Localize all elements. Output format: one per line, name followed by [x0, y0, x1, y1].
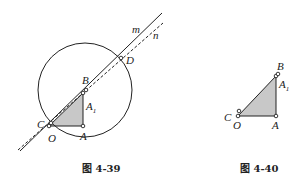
label-m: m: [132, 23, 140, 35]
label-O: O: [48, 132, 56, 144]
point-A: [274, 114, 278, 118]
shaded-triangle: [49, 93, 83, 126]
figure-4-40: B A1 C O A 图 4-40: [224, 60, 289, 174]
caption-4-39: 图 4-39: [82, 163, 121, 174]
point-C: [49, 121, 53, 125]
point-B: [84, 88, 88, 92]
label-A: A: [79, 130, 87, 142]
label-A1: A1: [278, 78, 289, 93]
line-m: [20, 13, 162, 151]
point-D: [119, 56, 123, 60]
caption-4-40: 图 4-40: [240, 163, 279, 174]
label-A1: A1: [85, 100, 96, 115]
figure-4-39: m n D B A1 C O A 图 4-39: [18, 13, 163, 174]
label-O: O: [233, 119, 241, 131]
line-n-dashed: [18, 23, 163, 150]
label-n: n: [153, 29, 159, 41]
point-A1: [81, 91, 85, 95]
label-C: C: [37, 118, 45, 130]
label-D: D: [125, 54, 134, 66]
shaded-triangle: [238, 76, 276, 116]
label-B: B: [82, 74, 89, 86]
label-B: B: [277, 60, 284, 72]
label-C: C: [224, 111, 232, 123]
diagram-canvas: m n D B A1 C O A 图 4-39 B A1 C O A 图 4-4…: [0, 0, 297, 183]
point-A: [81, 124, 85, 128]
label-A: A: [271, 119, 279, 131]
point-C: [237, 109, 241, 113]
point-B: [276, 72, 280, 76]
point-O: [236, 114, 240, 118]
